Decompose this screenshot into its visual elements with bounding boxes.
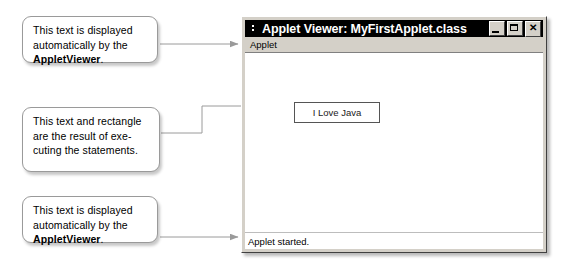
applet-drawn-text: I Love Java [313, 107, 362, 118]
callout-middle-line-1: This text and rectangle [33, 114, 150, 129]
maximize-button[interactable] [507, 21, 523, 36]
figure-canvas: This text is displayed automatically by … [0, 0, 574, 277]
window-inner-frame: Applet Viewer: MyFirstApplet.class ✕ App… [242, 17, 546, 252]
callout-bottom-line-2: automatically by the [33, 218, 148, 233]
callout-bottom-line-3: AppletViewer. [33, 232, 148, 247]
window-menubar: Applet [245, 37, 543, 52]
window-title: Applet Viewer: MyFirstApplet.class [262, 22, 489, 36]
callout-bottom: This text is displayed automatically by … [22, 196, 158, 243]
status-text: Applet started. [248, 236, 309, 247]
window-statusbar: Applet started. [245, 232, 543, 249]
callout-middle-line-2: are the result of exe- [33, 129, 150, 144]
callout-top-line-1: This text is displayed [33, 23, 148, 38]
callout-bottom-emphasis: AppletViewer [33, 233, 101, 245]
callout-bottom-line-1: This text is displayed [33, 203, 148, 218]
applet-canvas: I Love Java [245, 52, 543, 232]
callout-top-emphasis: AppletViewer [33, 53, 101, 65]
callout-bottom-period: . [101, 233, 104, 245]
minimize-button[interactable] [489, 21, 505, 36]
callout-middle: This text and rectangle are the result o… [22, 107, 160, 172]
close-button[interactable]: ✕ [525, 21, 541, 37]
window-titlebar[interactable]: Applet Viewer: MyFirstApplet.class ✕ [245, 20, 543, 37]
callout-top-period: . [101, 53, 104, 65]
callout-top: This text is displayed automatically by … [22, 16, 158, 63]
applet-drawn-rectangle: I Love Java [294, 102, 380, 123]
menu-item-applet[interactable]: Applet [248, 39, 279, 50]
window-controls: ✕ [489, 21, 541, 37]
callout-middle-line-3: cuting the statements. [33, 143, 150, 158]
callout-top-line-3: AppletViewer. [33, 52, 148, 67]
callout-top-line-2: automatically by the [33, 38, 148, 53]
applet-window-icon [248, 23, 259, 34]
applet-viewer-window: Applet Viewer: MyFirstApplet.class ✕ App… [241, 16, 547, 253]
